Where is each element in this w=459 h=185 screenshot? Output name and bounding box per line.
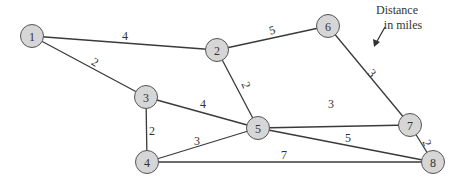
edge-weight-5-8: 5 — [345, 131, 351, 145]
edge-weight-5-7: 3 — [328, 97, 334, 111]
node-label: 3 — [143, 91, 149, 105]
node-label: 8 — [430, 156, 436, 170]
edge-weight-6-7: 3 — [365, 66, 379, 80]
network-diagram: 425232433572 12345678 Distance in miles — [0, 0, 459, 185]
node-label: 6 — [325, 20, 331, 34]
node-4: 4 — [136, 151, 159, 174]
edge-weight-2-5: 2 — [238, 80, 253, 91]
node-2: 2 — [206, 39, 229, 62]
edge-weight-1-2: 4 — [122, 29, 128, 43]
edge-weight-4-8: 7 — [281, 148, 287, 162]
edge-weight-3-4: 2 — [149, 124, 155, 138]
node-label: 1 — [29, 30, 35, 44]
edge-4-5 — [147, 128, 258, 162]
annotation-line-2: in miles — [384, 18, 423, 32]
edge-weight-4-5: 3 — [194, 134, 200, 148]
node-6: 6 — [317, 15, 340, 38]
edge-weight-7-8: 2 — [419, 138, 434, 148]
node-1: 1 — [21, 25, 44, 48]
node-label: 2 — [214, 44, 220, 58]
node-3: 3 — [135, 86, 158, 109]
annotation-line-1: Distance — [376, 3, 418, 17]
edge-weight-3-5: 4 — [200, 97, 206, 111]
edge-weight-1-3: 2 — [89, 54, 101, 69]
edge-weight-2-6: 5 — [267, 22, 276, 37]
arrow-icon — [373, 27, 385, 47]
node-8: 8 — [422, 151, 445, 174]
node-7: 7 — [399, 114, 422, 137]
nodes-layer: 12345678 — [21, 15, 445, 174]
edges-layer — [32, 26, 433, 162]
node-label: 5 — [255, 122, 261, 136]
node-label: 4 — [144, 156, 150, 170]
node-5: 5 — [247, 117, 270, 140]
edge-2-5 — [217, 50, 258, 128]
distance-annotation: Distance in miles — [373, 3, 422, 47]
node-label: 7 — [407, 119, 413, 133]
edge-5-7 — [258, 125, 410, 128]
